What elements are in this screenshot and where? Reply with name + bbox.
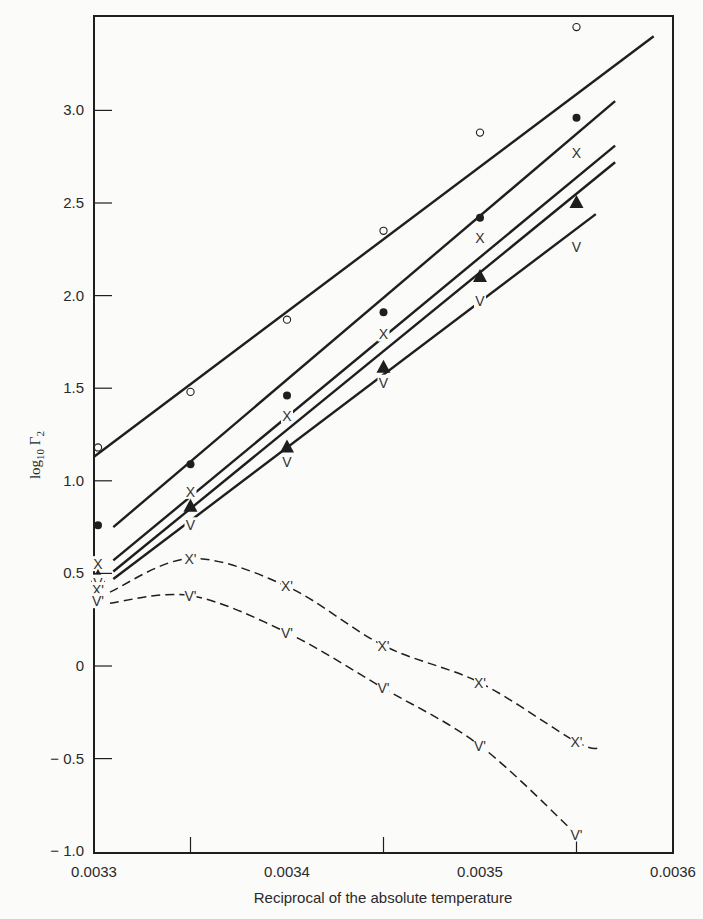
x-axis: 0.00330.00340.00350.0036 [71,837,696,880]
letter-marker: V' [474,738,486,754]
letter-marker: X [572,145,582,161]
y-axis: − 1.0− 0.500.51.01.52.02.53.0 [50,101,112,859]
letter-marker: X [186,484,196,500]
filled-circle-marker [380,308,388,316]
y-tick-label: 0.5 [63,564,84,581]
filled-circle-marker [94,521,102,529]
open-circle-marker [187,388,194,395]
letter-marker: V [379,375,389,391]
letter-marker: V' [570,827,582,843]
letter-marker: X' [281,578,293,594]
letter-marker: X [282,408,292,424]
letter-marker: V' [184,588,196,604]
letter-marker: X [475,230,485,246]
filled-circle-marker [187,460,195,468]
y-tick-label: 2.0 [63,287,84,304]
letter-marker: X [379,326,389,342]
x-tick-label: 0.0036 [650,863,696,880]
y-axis-title: log10 Γ2 [27,431,46,479]
letter-marker: V [282,454,292,470]
y-tick-label: 2.5 [63,194,84,211]
fit-lines [94,36,654,834]
plot-border [94,16,673,853]
open-circle-marker [94,444,101,451]
y-tick-label: 3.0 [63,101,84,118]
open-circle-marker [573,23,580,30]
letter-marker: X' [184,551,196,567]
filled-triangle-marker [280,439,294,452]
y-tick-label: − 0.5 [50,750,84,767]
filled-triangle-marker [377,360,391,373]
data-points: XXXXXXVVVVVVX'X'X'X'X'X'V'V'V'V'V'V' [91,23,584,842]
letter-marker: X' [474,675,486,691]
open-circle-marker [476,129,483,136]
filled-circle-marker [476,214,484,222]
x-tick-label: 0.0034 [264,863,310,880]
letter-marker: X' [377,638,389,654]
filled-circle-marker [573,114,581,122]
letter-marker: V [475,293,485,309]
fit-line [94,36,654,456]
open-circle-marker [380,227,387,234]
letter-marker: X' [570,734,582,750]
y-tick-label: 1.0 [63,472,84,489]
y-tick-label: 1.5 [63,379,84,396]
chart: 0.00330.00340.00350.0036 − 1.0− 0.500.51… [0,0,703,919]
y-tick-label: 0 [76,657,84,674]
dashed-curve [110,594,577,834]
open-circle-marker [283,316,290,323]
letter-marker: V [572,239,582,255]
y-tick-label: − 1.0 [50,842,84,859]
filled-circle-marker [283,392,291,400]
plot-frame [94,16,673,853]
x-tick-label: 0.0035 [457,863,503,880]
x-tick-label: 0.0033 [71,863,117,880]
x-axis-title: Reciprocal of the absolute temperature [254,889,512,906]
letter-marker: V' [377,680,389,696]
letter-marker: V [186,517,196,533]
letter-marker: V' [92,593,104,609]
letter-marker: V' [281,625,293,641]
